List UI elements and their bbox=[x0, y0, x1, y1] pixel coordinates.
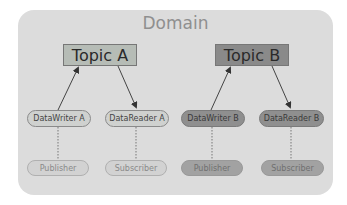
arrow-topic-a-to-datareader-a bbox=[118, 66, 136, 107]
connector-layer bbox=[0, 0, 347, 205]
arrow-topic-b-to-datareader-b bbox=[272, 66, 290, 107]
arrow-datawriter-b-to-topic-b bbox=[211, 68, 230, 110]
arrow-datawriter-a-to-topic-a bbox=[58, 68, 78, 110]
